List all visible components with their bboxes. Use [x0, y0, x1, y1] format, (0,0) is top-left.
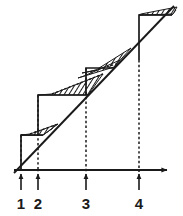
step-1 [21, 135, 43, 170]
step-function-path [21, 15, 172, 170]
tick-label-2: 2 [34, 195, 42, 212]
tick-label-3: 3 [82, 195, 90, 212]
reference-line [14, 6, 174, 173]
step-function-figure: 1 2 3 4 [0, 0, 183, 216]
tick-arrows [21, 174, 139, 190]
dashed-chords [30, 64, 116, 134]
tick-label-1: 1 [17, 195, 25, 212]
tick-labels: 1 2 3 4 [17, 195, 144, 212]
figure-canvas: 1 2 3 4 [0, 0, 183, 216]
tick-label-4: 4 [135, 195, 144, 212]
